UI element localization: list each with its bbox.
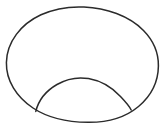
canvas-background — [0, 0, 167, 130]
drawing-canvas — [0, 0, 167, 130]
sketch-figure — [0, 0, 167, 130]
